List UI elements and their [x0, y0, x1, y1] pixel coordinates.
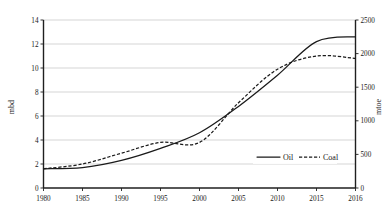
line-chart: 198019851990199520002005201020152016 024…: [0, 0, 392, 217]
gridline-group: [44, 20, 356, 164]
x-axis-tick-label: 2016: [348, 195, 363, 203]
y2-axis-tick-label: 1000: [361, 117, 376, 125]
x-axis-tick-label: 1985: [75, 195, 90, 203]
x-axis-tick-label: 1990: [114, 195, 129, 203]
y2-axis-tick-label: 1500: [361, 84, 376, 92]
x-axis-tick-label: 1980: [36, 195, 51, 203]
y-axis-tick-group: 02468101214: [31, 17, 43, 193]
y-axis-tick-label: 2: [35, 161, 39, 169]
y2-axis-tick-group: 05001000150020002500: [356, 17, 376, 193]
legend-label-oil: Oil: [283, 153, 294, 162]
y-axis-tick-label: 6: [35, 113, 39, 121]
x-axis-tick-group: 198019851990199520002005201020152016: [36, 188, 363, 203]
chart-container: 198019851990199520002005201020152016 024…: [0, 0, 392, 217]
y2-axis-tick-label: 2000: [361, 50, 376, 58]
y-axis-title: mbd: [7, 100, 16, 114]
y-axis-tick-label: 0: [35, 185, 39, 193]
y2-axis-tick-label: 0: [361, 185, 365, 193]
x-axis-tick-label: 2005: [231, 195, 246, 203]
y-axis-tick-label: 14: [31, 17, 39, 25]
y2-axis-tick-label: 500: [361, 151, 372, 159]
y-axis-tick-label: 12: [31, 41, 39, 49]
x-axis-tick-label: 1995: [153, 195, 168, 203]
y2-axis-tick-label: 2500: [361, 17, 376, 25]
y-axis-tick-label: 8: [35, 89, 39, 97]
x-axis-tick-label: 2010: [270, 195, 285, 203]
legend-label-coal: Coal: [323, 153, 339, 162]
y-axis-tick-label: 10: [31, 65, 39, 73]
x-axis-tick-label: 2000: [192, 195, 207, 203]
chart-legend: Oil Coal: [253, 149, 339, 164]
x-axis-tick-label: 2015: [309, 195, 324, 203]
y-axis-tick-label: 4: [35, 137, 39, 145]
y2-axis-title: mtoe: [374, 99, 383, 115]
